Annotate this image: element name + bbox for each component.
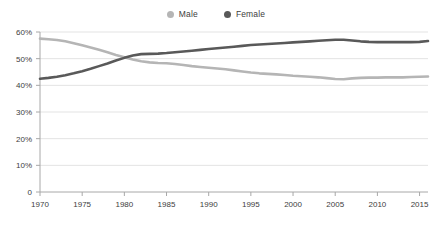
- gridlines: [40, 32, 428, 165]
- y-tick-label: 10%: [16, 161, 32, 170]
- series-line-female: [40, 40, 428, 79]
- x-axis: [40, 192, 428, 196]
- x-tick-label: 1990: [200, 200, 218, 209]
- y-tick-label: 30%: [16, 108, 32, 117]
- x-tick-label: 2010: [368, 200, 386, 209]
- y-tick-label: 40%: [16, 81, 32, 90]
- x-tick-label: 1980: [115, 200, 133, 209]
- x-tick-label: 1975: [73, 200, 91, 209]
- x-tick-label: 1970: [31, 200, 49, 209]
- y-tick-label: 0: [28, 188, 33, 197]
- x-tick-labels: 1970197519801985199019952000200520102015: [31, 200, 429, 209]
- x-tick-label: 2015: [411, 200, 429, 209]
- x-tick-label: 2000: [284, 200, 302, 209]
- x-tick-label: 1995: [242, 200, 260, 209]
- y-tick-labels: 60%50%40%30%20%10%0: [16, 28, 33, 197]
- y-tick-label: 60%: [16, 28, 32, 37]
- line-chart: Male Female 60%50%40%30%20%10%0 19701975…: [0, 0, 432, 225]
- plot-area: 60%50%40%30%20%10%0 19701975198019851990…: [0, 0, 432, 225]
- y-tick-label: 50%: [16, 55, 32, 64]
- x-tick-label: 2005: [326, 200, 344, 209]
- y-tick-label: 20%: [16, 135, 32, 144]
- y-axis: [36, 32, 40, 192]
- x-tick-label: 1985: [158, 200, 176, 209]
